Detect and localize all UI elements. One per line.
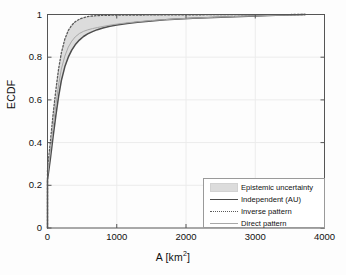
x-tick-label: 1000 [97,231,137,242]
x-axis-label-tail: ] [187,251,190,263]
x-tick-label: 4000 [305,231,345,242]
legend-swatch-dotted-line-icon [207,206,241,217]
x-tick-label: 2000 [166,231,206,242]
x-axis-label: A [km2] [0,250,346,263]
legend-item-inverse-pattern: Inverse pattern [204,206,324,217]
legend-label: Independent (AU) [241,194,301,205]
legend-swatch-light-line-icon [207,218,241,229]
y-axis-label: ECDF [5,95,17,109]
x-tick-label: 3000 [235,231,275,242]
y-tick-label: 0.8 [12,51,42,62]
y-tick-label: 1 [12,9,42,20]
y-tick-label: 0.4 [12,137,42,148]
legend-item-independent-au: Independent (AU) [204,194,324,205]
legend-swatch-solid-line-icon [207,194,241,205]
chart-legend: Epistemic uncertainty Independent (AU) I… [203,178,325,228]
legend-item-epistemic-uncertainty: Epistemic uncertainty [204,182,324,193]
y-tick-label: 0 [12,222,42,233]
legend-item-direct-pattern: Direct pattern [204,218,324,229]
x-axis-label-base: A [km [156,251,183,263]
legend-label: Direct pattern [241,218,287,229]
legend-label: Epistemic uncertainty [241,182,313,193]
legend-label: Inverse pattern [241,206,292,217]
ecdf-chart-figure: 01000200030004000 00.20.40.60.81 A [km2]… [0,0,346,275]
y-tick-label: 0.2 [12,179,42,190]
legend-swatch-band-icon [207,182,241,193]
